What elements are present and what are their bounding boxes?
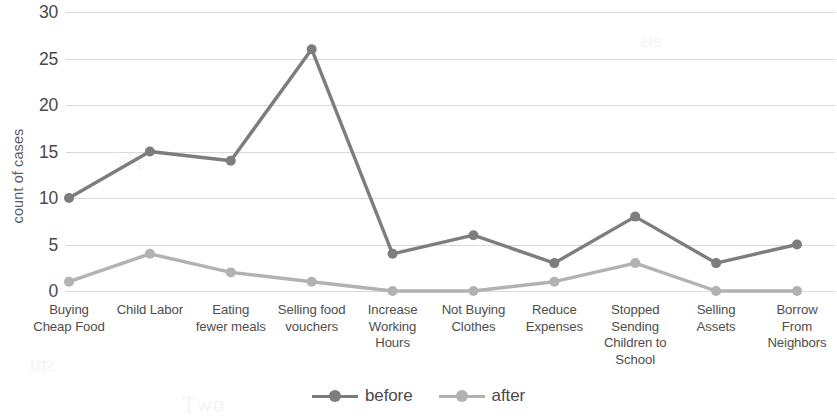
- x-axis-tick-line: Stopped: [589, 302, 681, 319]
- data-point-after: [307, 277, 317, 287]
- data-point-after: [711, 286, 721, 296]
- data-point-before: [388, 249, 398, 259]
- x-axis-tick-line: Sending: [589, 319, 681, 336]
- y-axis-tick-label: 5: [18, 234, 58, 255]
- data-point-after: [549, 277, 559, 287]
- x-axis-tick-line: Children to: [589, 335, 681, 352]
- data-point-after: [226, 267, 236, 277]
- legend-swatch-before-icon: [312, 390, 358, 402]
- x-axis-tick-line: Expenses: [508, 319, 600, 336]
- x-axis-tick-line: Not Buying: [427, 302, 519, 319]
- x-axis-tick-line: Reduce: [508, 302, 600, 319]
- data-point-before: [307, 44, 317, 54]
- y-axis-tick-label: 20: [18, 95, 58, 116]
- x-axis-tick-label: IncreaseWorkingHours: [347, 302, 439, 352]
- x-axis-tick-label: BorrowFromNeighbors: [751, 302, 837, 352]
- legend-swatch-after-icon: [439, 390, 485, 402]
- x-axis-tick-label: ReduceExpenses: [508, 302, 600, 335]
- x-axis-tick-line: vouchers: [266, 319, 358, 336]
- x-axis-tick-line: Neighbors: [751, 335, 837, 352]
- y-axis-tick-label: 10: [18, 188, 58, 209]
- x-axis-tick-label: Not BuyingClothes: [427, 302, 519, 335]
- data-point-before: [549, 258, 559, 268]
- data-point-after: [64, 277, 74, 287]
- series-line-before: [69, 49, 797, 263]
- x-axis-tick-line: From: [751, 319, 837, 336]
- x-axis-tick-label: SellingAssets: [670, 302, 762, 335]
- x-axis-tick-line: Hours: [347, 335, 439, 352]
- x-axis-tick-label: Selling foodvouchers: [266, 302, 358, 335]
- data-point-after: [630, 258, 640, 268]
- y-axis-tick-label: 15: [18, 141, 58, 162]
- series-line-after: [69, 254, 797, 291]
- x-axis-tick-line: Clothes: [427, 319, 519, 336]
- x-axis-tick-line: Assets: [670, 319, 762, 336]
- x-axis-tick-line: Increase: [347, 302, 439, 319]
- x-axis-tick-line: Cheap Food: [23, 319, 115, 336]
- data-point-after: [388, 286, 398, 296]
- x-axis-tick-line: Selling: [670, 302, 762, 319]
- x-axis-tick-label: BuyingCheap Food: [23, 302, 115, 335]
- data-point-after: [145, 249, 155, 259]
- x-axis-tick-line: fewer meals: [185, 319, 277, 336]
- x-axis-tick-labels: BuyingCheap FoodChild LaborEatingfewer m…: [0, 302, 837, 382]
- data-point-before: [792, 240, 802, 250]
- legend-label-before: before: [365, 386, 413, 406]
- data-point-before: [468, 230, 478, 240]
- x-axis-tick-line: Child Labor: [104, 302, 196, 319]
- x-axis-tick-label: Child Labor: [104, 302, 196, 319]
- data-point-after: [792, 286, 802, 296]
- x-axis-tick-line: Eating: [185, 302, 277, 319]
- x-axis-tick-line: Borrow: [751, 302, 837, 319]
- series-lines: [66, 0, 835, 300]
- y-axis-tick-label: 25: [18, 48, 58, 69]
- x-axis-tick-label: StoppedSendingChildren toSchool: [589, 302, 681, 368]
- x-axis-tick-line: Buying: [23, 302, 115, 319]
- x-axis-tick-line: Working: [347, 319, 439, 336]
- data-point-before: [711, 258, 721, 268]
- data-point-before: [64, 193, 74, 203]
- legend-entry-before: before: [312, 386, 413, 406]
- x-axis-tick-label: Eatingfewer meals: [185, 302, 277, 335]
- legend-entry-after: after: [439, 386, 526, 406]
- chart-legend: before after: [0, 386, 837, 406]
- data-point-before: [226, 156, 236, 166]
- data-point-before: [630, 212, 640, 222]
- y-axis-tick-label: 0: [18, 281, 58, 302]
- line-chart-figure: stu owT ets pln count of cases 302520151…: [0, 0, 837, 416]
- x-axis-tick-line: School: [589, 352, 681, 369]
- x-axis-tick-line: Selling food: [266, 302, 358, 319]
- legend-label-after: after: [492, 386, 526, 406]
- data-point-before: [145, 147, 155, 157]
- y-axis-tick-label: 30: [18, 2, 58, 23]
- plot-area: [66, 0, 835, 300]
- data-point-after: [468, 286, 478, 296]
- y-axis-tick-labels: 302520151050: [18, 0, 58, 300]
